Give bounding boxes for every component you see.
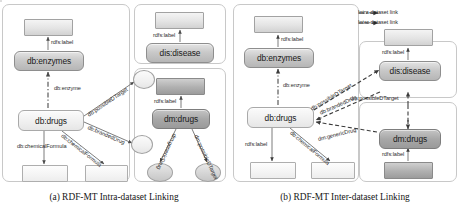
figure-root: db:enzymes db:drugs dis:disease dm:drugs… [0,0,459,217]
attr-b-drugs-formula [311,162,355,179]
edge-label-b-db-enzyme: db:enzyme [283,82,310,88]
edge-label-b-rdfs-label-enzymes: rdfs:label [281,36,303,42]
attr-b-enzymes-label [254,16,303,33]
edge-label-b-rdfs-label-drugs: rdfs:label [245,141,267,147]
node-b-db-drugs[interactable]: db:drugs [247,107,314,128]
node-b-dis-disease[interactable]: dis:disease [379,61,441,81]
node-label: db:enzymes [257,53,301,63]
legend-line-inter [358,19,384,27]
edge-label-b-dm-possible-dtarget: dm:possibleDTarget [350,95,399,101]
legend: Intra-dataset link Inter-dataset link [358,9,458,33]
attr-b-drugs-label [250,162,296,179]
node-b-dm-drugs[interactable]: dm:drugs [379,129,441,149]
legend-row-inter: Inter-dataset link [358,19,398,25]
attr-b-dmdrugs-label [384,162,433,179]
caption-b: (b) RDF-MT Inter-dataset Linking [231,192,459,202]
legend-line-intra [358,9,384,17]
node-label: dm:drugs [393,134,427,144]
edge-label-b-rdfs-label-dmdrugs: rdfs:label [382,151,404,157]
node-b-db-enzymes[interactable]: db:enzymes [244,48,314,68]
node-label: db:drugs [265,113,297,123]
edge-label-b-rdfs-label-disease: rdfs:label [382,49,404,55]
node-label: dis:disease [390,66,431,76]
legend-row-intra: Intra-dataset link [358,9,398,15]
